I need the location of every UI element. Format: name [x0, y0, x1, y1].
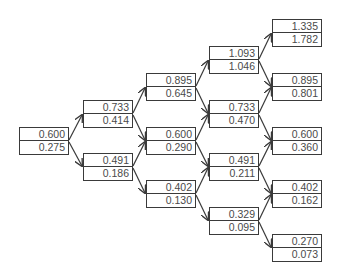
tree-node-4-0: 1.335 1.782 [272, 19, 322, 47]
up-arrow [259, 195, 271, 220]
tree-node-4-3: 0.402 0.162 [272, 180, 322, 208]
node-value: 0.895 [273, 74, 321, 87]
node-subvalue: 0.211 [210, 167, 258, 180]
node-value: 0.402 [273, 181, 321, 194]
tree-node-4-1: 0.895 0.801 [272, 73, 322, 101]
node-value: 0.733 [84, 101, 132, 114]
node-value: 0.491 [84, 154, 132, 167]
tree-node-4-4: 0.270 0.073 [272, 234, 322, 262]
up-arrow [133, 88, 145, 113]
down-arrow [259, 115, 271, 140]
tree-node-2-2: 0.402 0.130 [146, 180, 196, 208]
node-value: 0.491 [210, 154, 258, 167]
node-subvalue: 1.782 [273, 33, 321, 46]
up-arrow [196, 61, 208, 86]
node-value: 0.329 [210, 208, 258, 221]
node-subvalue: 0.073 [273, 248, 321, 261]
down-arrow [196, 88, 208, 113]
up-arrow [133, 142, 145, 166]
down-arrow [259, 168, 271, 193]
node-value: 0.270 [273, 235, 321, 248]
up-arrow [259, 34, 271, 59]
node-value: 0.733 [210, 101, 258, 114]
down-arrow [69, 142, 82, 166]
node-value: 0.895 [147, 74, 195, 87]
tree-node-3-3: 0.329 0.095 [209, 207, 259, 235]
down-arrow [196, 142, 208, 166]
node-value: 1.093 [210, 47, 258, 60]
up-arrow [259, 142, 271, 166]
node-subvalue: 1.046 [210, 60, 258, 73]
tree-node-2-0: 0.895 0.645 [146, 73, 196, 101]
tree-node-3-2: 0.491 0.211 [209, 153, 259, 181]
down-arrow [133, 115, 145, 140]
tree-node-2-1: 0.600 0.290 [146, 127, 196, 155]
node-value: 0.600 [147, 128, 195, 141]
node-subvalue: 0.414 [84, 114, 132, 127]
node-value: 0.402 [147, 181, 195, 194]
node-subvalue: 0.470 [210, 114, 258, 127]
node-value: 0.600 [20, 128, 68, 141]
down-arrow [133, 168, 145, 193]
node-subvalue: 0.095 [210, 221, 258, 234]
node-subvalue: 0.645 [147, 87, 195, 100]
tree-node-3-1: 0.733 0.470 [209, 100, 259, 128]
node-subvalue: 0.130 [147, 194, 195, 207]
tree-node-1-0: 0.733 0.414 [83, 100, 133, 128]
node-subvalue: 0.162 [273, 194, 321, 207]
tree-node-1-1: 0.491 0.186 [83, 153, 133, 181]
node-subvalue: 0.275 [20, 141, 68, 154]
up-arrow [69, 115, 82, 140]
down-arrow [259, 61, 271, 86]
tree-node-3-0: 1.093 1.046 [209, 46, 259, 74]
node-subvalue: 0.186 [84, 167, 132, 180]
tree-node-4-2: 0.600 0.360 [272, 127, 322, 155]
node-subvalue: 0.360 [273, 141, 321, 154]
tree-node-0-0: 0.600 0.275 [19, 127, 69, 155]
node-value: 1.335 [273, 20, 321, 33]
up-arrow [196, 115, 208, 140]
down-arrow [259, 222, 271, 247]
node-subvalue: 0.801 [273, 87, 321, 100]
up-arrow [259, 88, 271, 113]
up-arrow [196, 168, 208, 193]
down-arrow [196, 195, 208, 220]
node-subvalue: 0.290 [147, 141, 195, 154]
node-value: 0.600 [273, 128, 321, 141]
